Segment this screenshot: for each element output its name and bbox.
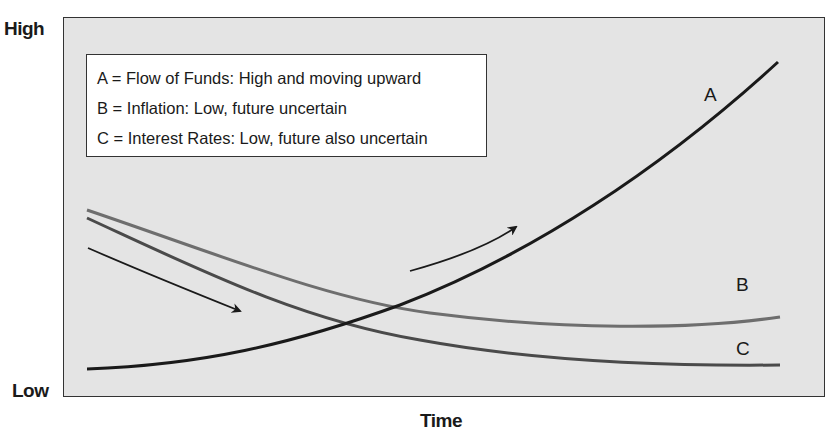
legend-item-a: A = Flow of Funds: High and moving upwar… [97, 63, 486, 93]
legend-item-b: B = Inflation: Low, future uncertain [97, 93, 486, 123]
up-arrow [410, 227, 516, 271]
curve-b [87, 210, 780, 326]
curve-label-c: C [736, 338, 750, 360]
legend-item-c: C = Interest Rates: Low, future also unc… [97, 123, 486, 153]
curve-label-a: A [704, 84, 717, 106]
curve-label-b: B [736, 274, 749, 296]
legend-box: A = Flow of Funds: High and moving upwar… [86, 54, 487, 157]
down-arrow [88, 248, 240, 311]
